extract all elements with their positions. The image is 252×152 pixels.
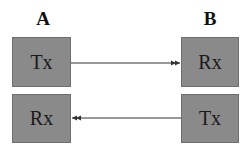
arrow-a-tx-to-b-rx bbox=[71, 61, 180, 66]
arrow-b-tx-to-a-rx bbox=[72, 116, 181, 121]
connection-arrows bbox=[0, 0, 252, 152]
